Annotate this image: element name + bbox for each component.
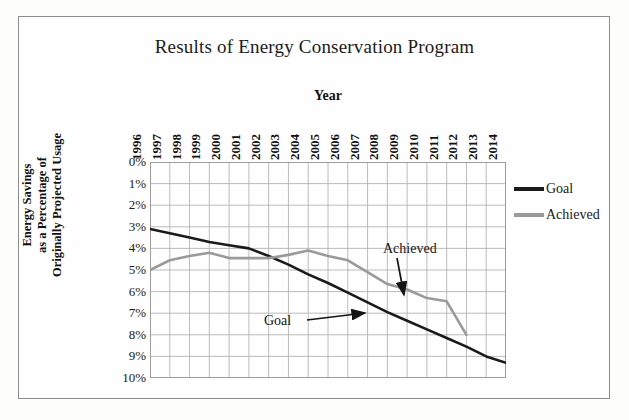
y-axis-title: Energy Savings as a Percentage of Origin… xyxy=(20,95,80,315)
scanned-page: Results of Energy Conservation Program Y… xyxy=(0,0,629,420)
gridlines xyxy=(150,162,506,378)
x-tick-label: 2006 xyxy=(328,104,342,160)
y-tick-label: 8% xyxy=(100,328,146,341)
x-tick-label: 2009 xyxy=(387,104,401,160)
x-tick-label: 1999 xyxy=(189,104,203,160)
y-tick-label: 7% xyxy=(100,306,146,319)
x-tick-label: 2014 xyxy=(486,104,500,160)
chart-svg xyxy=(150,162,506,378)
x-tick-label: 2002 xyxy=(249,104,263,160)
y-tick-label: 2% xyxy=(100,198,146,211)
x-axis-tick-labels: 1996199719981999200020012002200320042005… xyxy=(150,104,506,160)
y-axis-tick-labels: 0%1%2%3%4%5%6%7%8%9%10% xyxy=(98,162,146,378)
plot-area xyxy=(150,162,506,378)
x-tick-label: 1996 xyxy=(130,104,144,160)
y-tick-label: 6% xyxy=(100,285,146,298)
legend-item-achieved[interactable]: Achieved xyxy=(514,202,614,228)
legend-label: Achieved xyxy=(546,207,600,223)
x-tick-label: 1997 xyxy=(150,104,164,160)
y-tick-label: 5% xyxy=(100,263,146,276)
legend-item-goal[interactable]: Goal xyxy=(514,176,614,202)
y-tick-label: 0% xyxy=(100,155,146,168)
x-tick-label: 2013 xyxy=(466,104,480,160)
y-tick-label: 4% xyxy=(100,241,146,254)
x-tick-label: 2003 xyxy=(268,104,282,160)
x-tick-label: 2005 xyxy=(308,104,322,160)
x-axis-title: Year xyxy=(150,88,506,104)
y-axis-title-line-3: Originally Projected Usage xyxy=(50,95,65,315)
x-tick-label: 2001 xyxy=(229,104,243,160)
chart-legend: GoalAchieved xyxy=(514,176,614,228)
y-tick-label: 1% xyxy=(100,177,146,190)
x-tick-label: 2008 xyxy=(367,104,381,160)
x-tick-label: 2010 xyxy=(407,104,421,160)
legend-label: Goal xyxy=(546,181,573,197)
y-axis-title-line-1: Energy Savings xyxy=(20,95,35,315)
x-tick-label: 2011 xyxy=(427,104,441,160)
y-tick-label: 10% xyxy=(100,371,146,384)
annotation-goal: Goal xyxy=(264,313,291,329)
x-tick-label: 2004 xyxy=(288,104,302,160)
legend-swatch-achieved xyxy=(514,213,544,217)
x-tick-label: 1998 xyxy=(170,104,184,160)
x-tick-label: 2012 xyxy=(446,104,460,160)
x-tick-label: 2000 xyxy=(209,104,223,160)
y-tick-label: 9% xyxy=(100,349,146,362)
y-tick-label: 3% xyxy=(100,220,146,233)
annotation-achieved: Achieved xyxy=(383,241,437,257)
y-axis-title-line-2: as a Percentage of xyxy=(35,95,50,315)
x-tick-label: 2007 xyxy=(348,104,362,160)
chart-title: Results of Energy Conservation Program xyxy=(0,36,629,58)
legend-swatch-goal xyxy=(514,187,544,191)
